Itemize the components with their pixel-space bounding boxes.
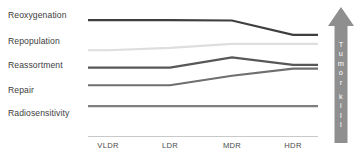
tick-label-vldr: VLDR (97, 142, 118, 150)
series-line-reassortment (88, 57, 318, 67)
tick-label-hdr: HDR (284, 142, 301, 150)
plot-area (0, 0, 361, 158)
series-line-repopulation (88, 44, 318, 50)
series-group (88, 20, 318, 106)
plot-svg (0, 0, 361, 158)
series-line-reoxygenation (88, 20, 318, 35)
radiobiology-dose-rate-figure: Reoxygenation Repopulation Reassortment … (0, 0, 361, 158)
series-line-repair (88, 69, 318, 86)
tick-label-mdr: MDR (223, 142, 241, 150)
arrow-shape (328, 7, 354, 143)
tumor-kill-arrow: Tumorkill (327, 6, 355, 144)
arrow-icon (327, 6, 355, 144)
tick-label-ldr: LDR (162, 142, 178, 150)
